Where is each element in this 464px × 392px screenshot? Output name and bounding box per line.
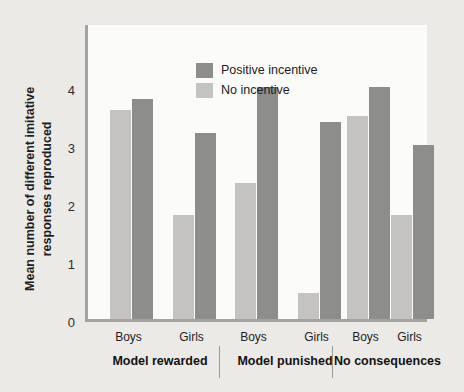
bar-positive-incentive — [413, 145, 434, 319]
legend-label: Positive incentive — [221, 64, 318, 77]
bar-no-incentive — [235, 183, 256, 319]
y-tick-label: 4 — [68, 84, 75, 97]
legend-swatch-icon — [196, 63, 213, 78]
chart-legend: Positive incentiveNo incentive — [196, 63, 318, 98]
x-sub-label: Girls — [397, 330, 422, 344]
group-divider — [332, 346, 333, 378]
bar-no-incentive — [110, 110, 131, 319]
legend-label: No incentive — [221, 84, 290, 97]
x-axis-labels: BoysGirlsModel rewardedBoysGirlsModel pu… — [85, 326, 427, 386]
y-tick-label: 3 — [68, 142, 75, 155]
x-sub-label: Boys — [240, 330, 267, 344]
x-group-label: Model punished — [237, 354, 332, 368]
chart-figure: Mean number of different imitative respo… — [0, 0, 464, 392]
legend-item: No incentive — [196, 83, 318, 98]
bar-no-incentive — [298, 293, 319, 319]
bar-positive-incentive — [369, 87, 390, 319]
bar-positive-incentive — [257, 87, 278, 319]
group-divider — [219, 346, 220, 378]
y-axis-ticks: 01234 — [0, 0, 85, 392]
y-tick-label: 0 — [68, 316, 75, 329]
x-sub-label: Girls — [304, 330, 329, 344]
bar-no-incentive — [347, 116, 368, 319]
y-tick-label: 1 — [68, 258, 75, 271]
bar-positive-incentive — [132, 99, 153, 319]
x-sub-label: Girls — [179, 330, 204, 344]
legend-swatch-icon — [196, 83, 213, 98]
bar-positive-incentive — [195, 133, 216, 319]
bar-no-incentive — [391, 215, 412, 319]
y-tick-label: 2 — [68, 200, 75, 213]
plot-area: Positive incentiveNo incentive — [85, 25, 427, 322]
bar-positive-incentive — [320, 122, 341, 319]
x-group-label: Model rewarded — [112, 354, 207, 368]
x-sub-label: Boys — [115, 330, 142, 344]
x-group-label: No consequences — [334, 354, 441, 368]
x-sub-label: Boys — [352, 330, 379, 344]
legend-item: Positive incentive — [196, 63, 318, 78]
bar-no-incentive — [173, 215, 194, 319]
